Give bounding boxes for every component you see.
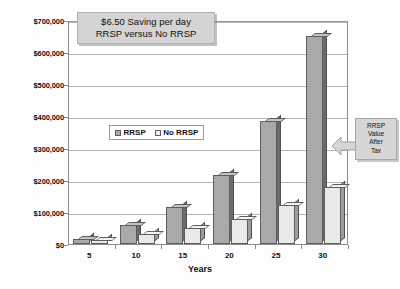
bar-front-face	[324, 187, 341, 244]
chart-title-box: $6.50 Saving per day RRSP versus No RRSP	[77, 12, 215, 44]
bar-no-rrsp-year-5	[91, 240, 108, 244]
y-tick-mark	[64, 21, 68, 22]
bar-front-face	[260, 121, 277, 244]
y-tick-label: $0	[2, 241, 64, 250]
callout-arrow-icon	[331, 134, 357, 158]
y-tick-label: $100,000	[2, 209, 64, 218]
y-tick-mark	[64, 53, 68, 54]
bar-side-face	[341, 181, 345, 241]
bar-rrsp-year-10	[120, 225, 137, 244]
bar-front-face	[213, 175, 230, 244]
legend-entry-rrsp: RRSP	[115, 128, 146, 137]
chart-container: $0$100,000$200,000$300,000$400,000$500,0…	[0, 0, 400, 289]
legend-entry-no-rrsp: No RRSP	[155, 128, 199, 137]
y-tick-mark	[64, 85, 68, 86]
bar-no-rrsp-year-10	[138, 234, 155, 244]
bar-front-face	[120, 225, 137, 244]
bar-rrsp-year-5	[73, 239, 90, 244]
chart-title-line-2: RRSP versus No RRSP	[82, 28, 210, 40]
x-tick-mark	[348, 245, 349, 249]
chart-title-line-1: $6.50 Saving per day	[82, 16, 210, 28]
bar-rrsp-year-20	[213, 175, 230, 244]
x-tick-label-25: 25	[272, 251, 281, 260]
callout-line-1: RRSP	[357, 122, 395, 130]
y-tick-mark	[64, 117, 68, 118]
bar-rrsp-year-25	[260, 121, 277, 244]
y-tick-label: $300,000	[2, 145, 64, 154]
callout-rrsp-value-after-tax: RRSP Value After Tax	[355, 118, 397, 160]
x-tick-label-30: 30	[318, 251, 327, 260]
x-tick-mark	[161, 245, 162, 249]
bar-rrsp-year-30	[306, 36, 323, 244]
y-tick-mark	[64, 213, 68, 214]
legend-swatch-icon-no-rrsp	[155, 130, 161, 136]
legend-swatch-icon-rrsp	[115, 130, 121, 136]
chart-legend: RRSP No RRSP	[109, 125, 204, 140]
x-tick-label-5: 5	[87, 251, 91, 260]
callout-line-4: Tax	[357, 147, 395, 155]
legend-label-rrsp: RRSP	[124, 128, 146, 137]
x-tick-mark	[301, 245, 302, 249]
y-tick-label: $400,000	[2, 113, 64, 122]
bar-front-face	[166, 207, 183, 244]
y-tick-label: $700,000	[2, 17, 64, 26]
bar-no-rrsp-year-15	[184, 228, 201, 244]
x-axis-title: Years	[0, 264, 400, 274]
x-tick-mark	[255, 245, 256, 249]
x-tick-label-15: 15	[178, 251, 187, 260]
bar-front-face	[306, 36, 323, 244]
y-tick-label: $600,000	[2, 49, 64, 58]
callout-line-2: Value	[357, 130, 395, 138]
bar-front-face	[278, 205, 295, 244]
legend-label-no-rrsp: No RRSP	[163, 128, 198, 137]
y-tick-label: $500,000	[2, 81, 64, 90]
bar-front-face	[91, 240, 108, 244]
callout-line-3: After	[357, 138, 395, 146]
x-tick-label-10: 10	[132, 251, 141, 260]
bar-no-rrsp-year-30	[324, 187, 341, 244]
y-tick-mark	[64, 149, 68, 150]
bar-no-rrsp-year-25	[278, 205, 295, 244]
bar-front-face	[138, 234, 155, 244]
x-tick-mark	[115, 245, 116, 249]
x-tick-label-20: 20	[225, 251, 234, 260]
bar-no-rrsp-year-20	[231, 219, 248, 244]
y-tick-label: $200,000	[2, 177, 64, 186]
bar-rrsp-year-15	[166, 207, 183, 244]
bar-front-face	[184, 228, 201, 244]
y-axis: $0$100,000$200,000$300,000$400,000$500,0…	[0, 0, 64, 289]
bar-front-face	[73, 239, 90, 244]
y-tick-mark	[64, 181, 68, 182]
x-tick-mark	[208, 245, 209, 249]
y-tick-mark	[64, 245, 68, 246]
bar-front-face	[231, 219, 248, 244]
